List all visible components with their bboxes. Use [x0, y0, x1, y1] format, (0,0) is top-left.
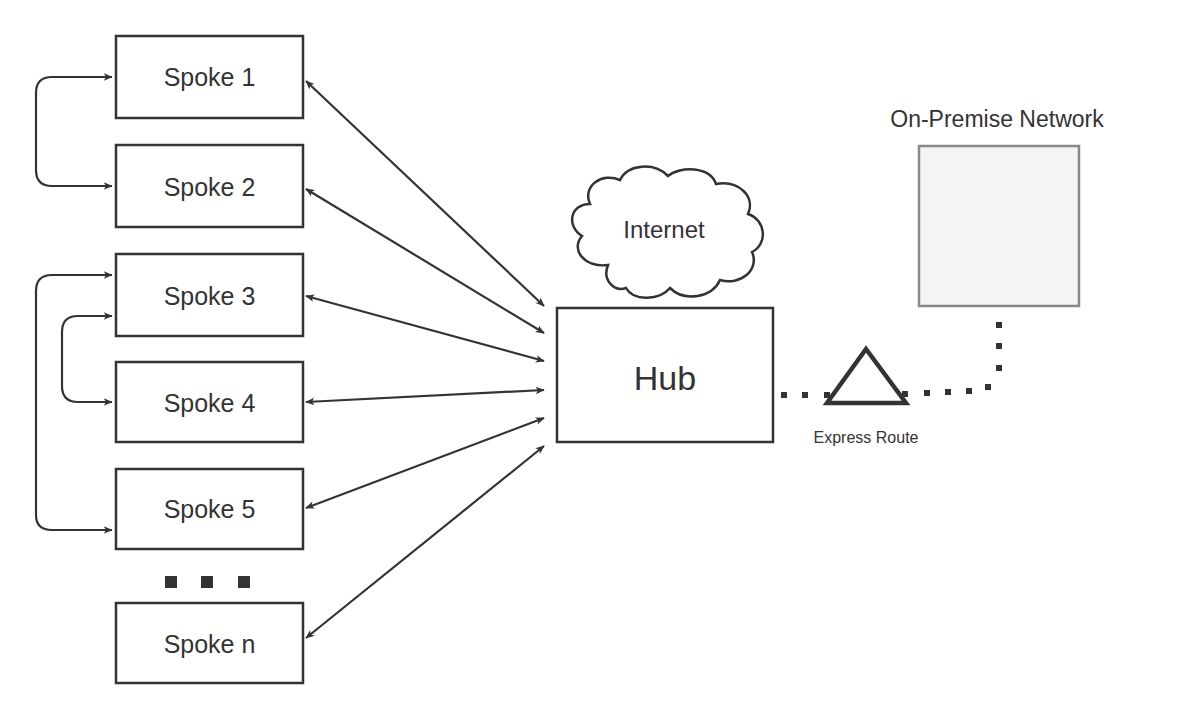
link-spoke5-hub	[306, 418, 544, 508]
spoke-4[interactable]: Spoke 4	[116, 362, 303, 442]
spoke-4-label: Spoke 4	[164, 389, 256, 417]
spoke-5-label: Spoke 5	[164, 495, 256, 523]
express-route[interactable]: Express Route	[814, 349, 919, 446]
link-spoke4-hub	[306, 390, 544, 402]
link-spoke2-hub	[306, 189, 544, 333]
hub-label: Hub	[634, 359, 696, 397]
spoke-n[interactable]: Spoke n	[116, 603, 303, 683]
dotted-link-expressroute-onprem	[902, 322, 1002, 397]
spoke-1-label: Spoke 1	[164, 63, 256, 91]
spoke-3[interactable]: Spoke 3	[116, 254, 303, 336]
spoke-2-label: Spoke 2	[164, 173, 256, 201]
spoke-5[interactable]: Spoke 5	[116, 469, 303, 549]
peering-spoke1-spoke2	[36, 77, 112, 186]
internet-label: Internet	[623, 216, 705, 243]
on-premise-network[interactable]: On-Premise Network	[890, 106, 1104, 306]
link-spoke1-hub	[306, 81, 544, 306]
spoke-n-label: Spoke n	[164, 630, 256, 658]
hub-spoke-diagram: marker#ah { overflow: visible; } Spoke 1…	[0, 0, 1177, 717]
ellipsis-icon	[165, 576, 250, 588]
on-premise-box	[919, 146, 1079, 306]
peering-spoke3-spoke4	[62, 316, 112, 402]
internet-cloud[interactable]: Internet	[572, 167, 763, 298]
spoke-2[interactable]: Spoke 2	[116, 145, 303, 227]
spoke-3-label: Spoke 3	[164, 282, 256, 310]
link-spoken-hub	[306, 446, 544, 638]
express-route-label: Express Route	[814, 429, 919, 446]
triangle-icon	[827, 349, 906, 403]
on-premise-label: On-Premise Network	[890, 106, 1104, 132]
dotted-link-hub-expressroute	[781, 392, 830, 398]
link-spoke3-hub	[306, 296, 544, 361]
spoke-1[interactable]: Spoke 1	[116, 36, 303, 118]
hub[interactable]: Hub	[557, 308, 773, 442]
